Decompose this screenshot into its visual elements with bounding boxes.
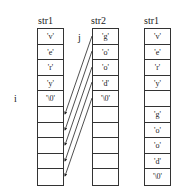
copy-arrows <box>0 0 181 196</box>
